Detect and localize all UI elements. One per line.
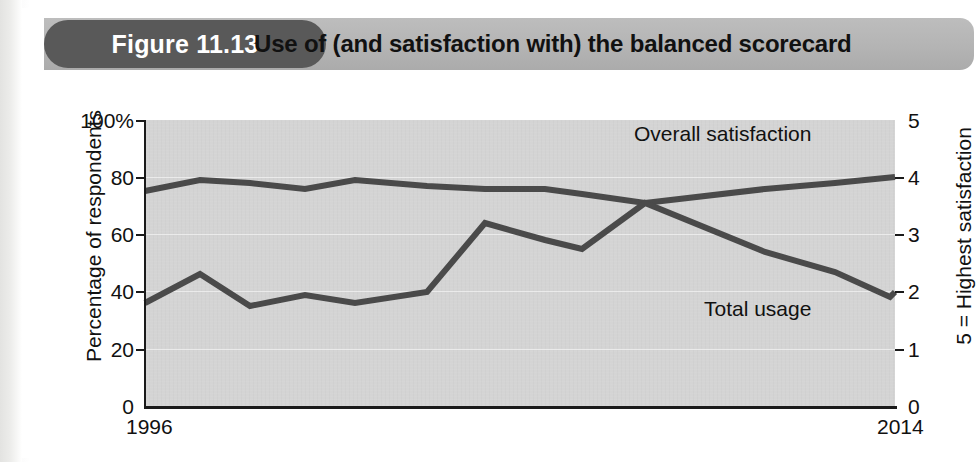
figure-title: Use of (and satisfaction with) the balan… — [254, 20, 852, 68]
y-axis-left-line — [144, 120, 146, 407]
figure-number-label: Figure 11.13 — [112, 30, 259, 59]
x-axis-line — [144, 406, 897, 409]
y-axis-right-cap — [895, 406, 897, 407]
y-axis-left-title: Percentage of respondents — [82, 86, 106, 386]
y-label-right-0: 0 — [908, 396, 920, 417]
tick-right-2 — [895, 291, 904, 293]
tick-left-100 — [136, 120, 145, 122]
chart-area: 100% 80 60 40 20 0 5 4 3 2 1 0 Percentag… — [44, 74, 980, 462]
x-label-end: 2014 — [877, 415, 924, 439]
y-label-right-4: 4 — [908, 167, 920, 188]
series-lines — [145, 120, 895, 406]
tick-left-20 — [136, 349, 145, 351]
series-label-total-usage: Total usage — [704, 297, 811, 321]
figure-card: Figure 11.13 Use of (and satisfaction wi… — [22, 8, 958, 458]
y-label-left-0: 0 — [68, 396, 134, 417]
tick-left-60 — [136, 234, 145, 236]
page-left-edge — [0, 0, 22, 462]
x-label-start: 1996 — [126, 415, 173, 439]
tick-right-3 — [895, 234, 904, 236]
y-label-right-5: 5 — [908, 110, 920, 131]
series-label-overall-satisfaction: Overall satisfaction — [634, 122, 811, 146]
y-label-right-2: 2 — [908, 281, 920, 302]
tick-right-1 — [895, 349, 904, 351]
line-total-usage — [145, 203, 895, 306]
tick-left-80 — [136, 177, 145, 179]
tick-right-4 — [895, 177, 904, 179]
y-label-right-3: 3 — [908, 224, 920, 245]
tick-left-40 — [136, 291, 145, 293]
line-overall-satisfaction — [145, 177, 895, 203]
plot-background — [145, 120, 895, 406]
y-label-right-1: 1 — [908, 339, 920, 360]
y-axis-right-title: 5 = Highest satisfaction — [952, 86, 976, 386]
